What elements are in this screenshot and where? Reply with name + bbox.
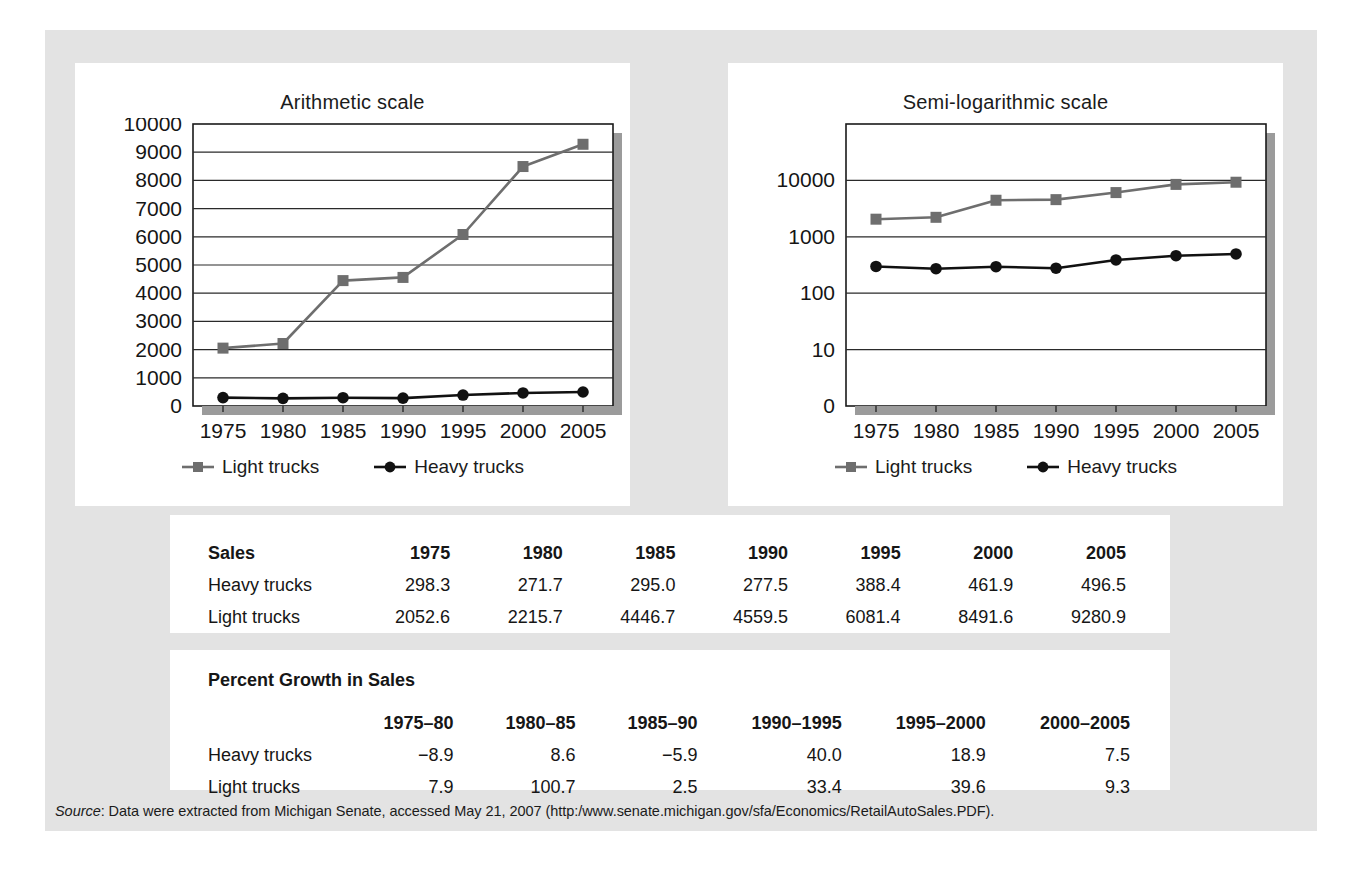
table-cell: 7.5	[1026, 739, 1170, 771]
y-axis-tick-label: 7000	[135, 197, 182, 220]
table-header-row: Sales1975198019851990199520002005	[170, 537, 1170, 569]
table-cell: 496.5	[1057, 569, 1170, 601]
y-axis-tick-label: 9000	[135, 140, 182, 163]
y-axis-tick-label: 100	[800, 281, 835, 304]
x-axis-tick-label: 1995	[440, 419, 487, 442]
arithmetic-scale-chart: 0100020003000400050006000700080009000100…	[75, 118, 630, 448]
x-axis-tick-label: 1980	[913, 419, 960, 442]
chart-title-semilogarithmic: Semi-logarithmic scale	[728, 91, 1283, 114]
table-corner-label	[170, 707, 372, 739]
growth-table-body: Heavy trucks−8.98.6−5.940.018.97.5Light …	[170, 739, 1170, 803]
chart-panel-arithmetic: Arithmetic scale 01000200030004000500060…	[75, 63, 630, 506]
table-cell: 295.0	[607, 569, 720, 601]
source-note: Source: Data were extracted from Michiga…	[55, 803, 994, 819]
y-axis-tick-label: 5000	[135, 253, 182, 276]
legend-label-light-trucks: Light trucks	[875, 456, 972, 478]
y-axis-tick-label: 2000	[135, 338, 182, 361]
legend-arithmetic: Light trucks Heavy trucks	[75, 456, 630, 478]
row-label: Heavy trucks	[170, 569, 382, 601]
table-cell: 100.7	[494, 771, 616, 803]
table-cell: 2052.6	[382, 601, 495, 633]
table-cell: 4559.5	[719, 601, 832, 633]
table-cell: 6081.4	[832, 601, 945, 633]
figure-frame: Arithmetic scale 01000200030004000500060…	[45, 30, 1317, 831]
heavy-trucks-marker-icon	[373, 460, 407, 474]
table-row: Light trucks2052.62215.74446.74559.56081…	[170, 601, 1170, 633]
column-header: 2000	[945, 537, 1058, 569]
column-header: 1995–2000	[882, 707, 1026, 739]
source-label: Source	[55, 803, 101, 819]
growth-table-caption: Percent Growth in Sales	[170, 650, 1170, 691]
column-header: 1975	[382, 537, 495, 569]
table-cell: 2.5	[616, 771, 738, 803]
table-cell: 39.6	[882, 771, 1026, 803]
table-cell: 9.3	[1026, 771, 1170, 803]
table-cell: 8491.6	[945, 601, 1058, 633]
x-axis-tick-label: 2005	[560, 419, 607, 442]
semilogarithmic-scale-chart: 0101001000100001975198019851990199520002…	[728, 118, 1283, 448]
column-header: 1975–80	[372, 707, 494, 739]
table-cell: 7.9	[372, 771, 494, 803]
legend-label-light-trucks: Light trucks	[222, 456, 319, 478]
x-axis-tick-label: 2000	[1153, 419, 1200, 442]
chart-panel-semilogarithmic: Semi-logarithmic scale 01010010001000019…	[728, 63, 1283, 506]
column-header: 2000–2005	[1026, 707, 1170, 739]
x-axis-tick-label: 1985	[320, 419, 367, 442]
column-header: 1995	[832, 537, 945, 569]
column-header: 1980–85	[494, 707, 616, 739]
x-axis-tick-label: 1990	[380, 419, 427, 442]
y-axis-tick-label: 3000	[135, 309, 182, 332]
table-cell: 8.6	[494, 739, 616, 771]
table-corner-label: Sales	[170, 537, 382, 569]
table-header-row: 1975–801980–851985–901990–19951995–20002…	[170, 707, 1170, 739]
table-cell: 4446.7	[607, 601, 720, 633]
table-cell: 33.4	[738, 771, 882, 803]
y-axis-tick-label: 10000	[124, 118, 182, 135]
table-cell: 9280.9	[1057, 601, 1170, 633]
table-row: Heavy trucks298.3271.7295.0277.5388.4461…	[170, 569, 1170, 601]
table-cell: −8.9	[372, 739, 494, 771]
light-trucks-marker-icon	[181, 460, 215, 474]
legend-item-light-trucks: Light trucks	[834, 456, 972, 478]
column-header: 1990–1995	[738, 707, 882, 739]
legend-item-heavy-trucks: Heavy trucks	[1026, 456, 1177, 478]
table-row: Light trucks7.9100.72.533.439.69.3	[170, 771, 1170, 803]
sales-table: Sales1975198019851990199520002005 Heavy …	[170, 537, 1170, 633]
light-trucks-marker-icon	[834, 460, 868, 474]
row-label: Light trucks	[170, 601, 382, 633]
heavy-trucks-marker-icon	[1026, 460, 1060, 474]
table-cell: 277.5	[719, 569, 832, 601]
column-header: 1985–90	[616, 707, 738, 739]
x-axis-tick-label: 1985	[973, 419, 1020, 442]
sales-table-head: Sales1975198019851990199520002005	[170, 537, 1170, 569]
column-header: 1990	[719, 537, 832, 569]
table-cell: 461.9	[945, 569, 1058, 601]
y-axis-tick-label: 0	[823, 394, 835, 417]
row-label: Heavy trucks	[170, 739, 372, 771]
table-cell: 18.9	[882, 739, 1026, 771]
x-axis-tick-label: 2000	[500, 419, 547, 442]
x-axis-tick-label: 1990	[1033, 419, 1080, 442]
legend-semilogarithmic: Light trucks Heavy trucks	[728, 456, 1283, 478]
y-axis-tick-label: 8000	[135, 168, 182, 191]
table-cell: −5.9	[616, 739, 738, 771]
table-cell: 298.3	[382, 569, 495, 601]
column-header: 2005	[1057, 537, 1170, 569]
sales-table-body: Heavy trucks298.3271.7295.0277.5388.4461…	[170, 569, 1170, 633]
table-row: Heavy trucks−8.98.6−5.940.018.97.5	[170, 739, 1170, 771]
sales-table-panel: Sales1975198019851990199520002005 Heavy …	[170, 515, 1170, 633]
column-header: 1980	[494, 537, 607, 569]
table-cell: 388.4	[832, 569, 945, 601]
percent-growth-table: 1975–801980–851985–901990–19951995–20002…	[170, 707, 1170, 803]
growth-table-panel: Percent Growth in Sales 1975–801980–8519…	[170, 650, 1170, 790]
source-text: : Data were extracted from Michigan Sena…	[101, 803, 995, 819]
x-axis-tick-label: 2005	[1213, 419, 1260, 442]
column-header: 1985	[607, 537, 720, 569]
y-axis-tick-label: 10000	[777, 168, 835, 191]
legend-item-heavy-trucks: Heavy trucks	[373, 456, 524, 478]
y-axis-tick-label: 10	[812, 338, 835, 361]
legend-label-heavy-trucks: Heavy trucks	[1067, 456, 1177, 478]
y-axis-tick-label: 1000	[135, 366, 182, 389]
chart-title-arithmetic: Arithmetic scale	[75, 91, 630, 114]
x-axis-tick-label: 1975	[853, 419, 900, 442]
